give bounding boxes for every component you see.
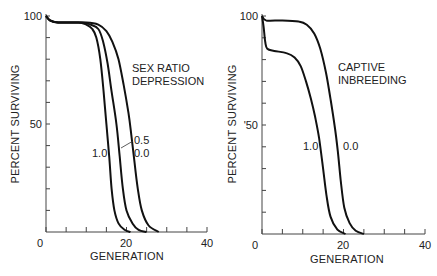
curve-0.0 [46,16,159,232]
left-ytick-100: 100 [24,10,42,22]
left-y-ticks [46,16,50,210]
left-xtick-20: 20 [120,237,132,249]
left-xtick-40: 40 [201,237,213,249]
left-x-axis-title: GENERATION [90,250,164,262]
right-ytick-100: 100 [240,10,258,22]
right-xtick-40: 40 [419,239,431,251]
right-x-axis-title: GENERATION [310,253,384,265]
left-series-label-0.0: 0.0 [134,147,149,159]
right-series-label-1.0: 1.0 [303,140,318,152]
left-series-label-0.5: 0.5 [134,134,149,146]
left-curves [46,16,159,232]
right-xtick-20: 20 [337,239,349,251]
left-annotation-line2: DEPRESSION [132,75,204,87]
left-series-label-1.0: 1.0 [92,147,107,159]
left-ytick-50: 50 [30,118,42,130]
left-axes [46,14,207,232]
right-y-axis-title: PERCENT SURVIVING [226,64,238,183]
right-curves [262,16,364,234]
curve-1.0 [262,16,346,234]
chart-captive-inbreeding: 100 '50 0 20 40 GENERATION PERCENT SURVI… [226,10,431,265]
left-annotation-line1: SEX RATIO [132,62,190,74]
right-annotation-line2: INBREEDING [338,74,406,86]
chart-sex-ratio-depression: 100 50 0 20 40 GENERATION PERCENT SURVIV… [9,10,213,262]
left-y-axis-title: PERCENT SURVIVING [9,64,21,183]
curve-0.5 [46,16,147,232]
curve-1.0 [46,16,131,232]
left-leader-0.5 [121,141,133,148]
curve-0.0 [262,16,364,234]
right-annotation-line1: CAPTIVE [338,61,385,73]
right-xtick-0: 0 [252,239,258,251]
right-series-label-0.0: 0.0 [343,140,358,152]
left-xtick-0: 0 [37,237,43,249]
right-ytick-50: '50 [244,119,258,131]
figure: 100 50 0 20 40 GENERATION PERCENT SURVIV… [0,0,437,276]
